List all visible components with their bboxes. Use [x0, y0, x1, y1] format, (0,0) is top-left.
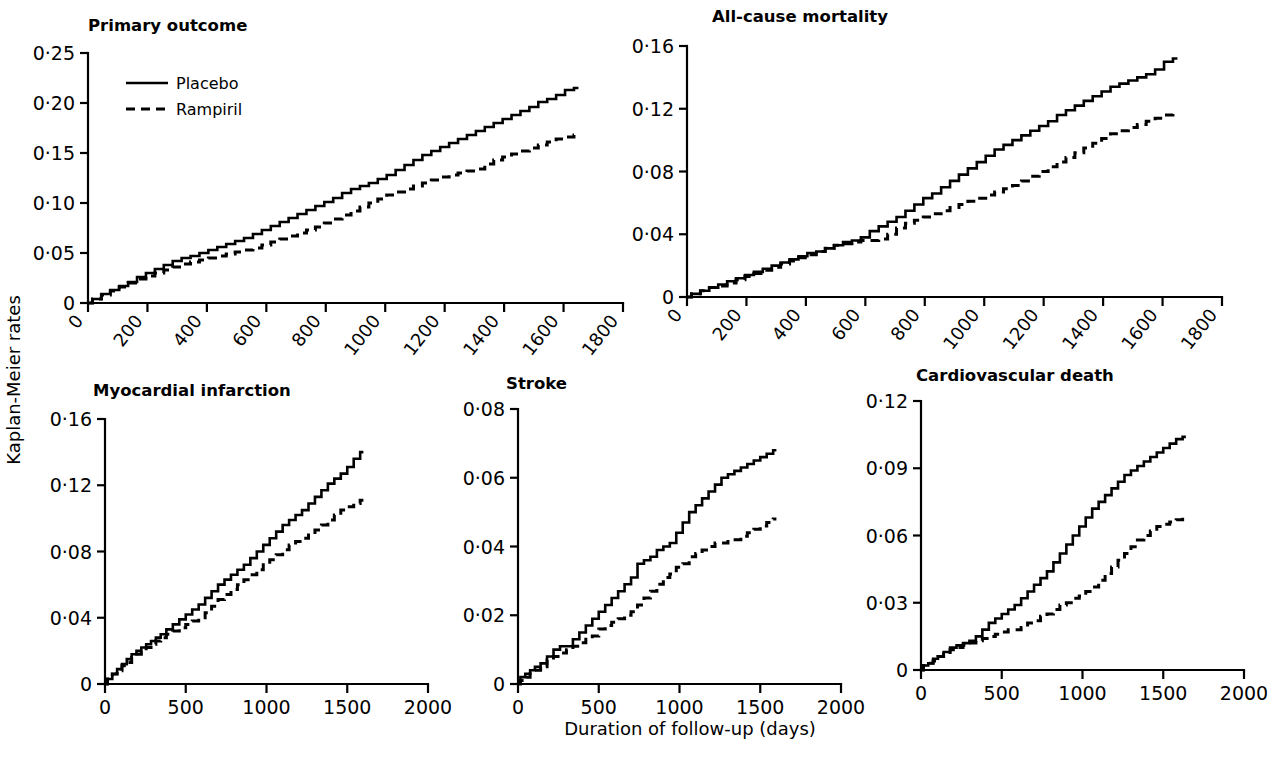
- y-tick-label: 0·25: [33, 42, 75, 64]
- x-tick-label: 500: [581, 696, 617, 718]
- x-tick-label: 1500: [736, 696, 784, 718]
- legend-label-placebo: Placebo: [176, 74, 238, 93]
- y-tick-label: 0·12: [632, 98, 674, 120]
- x-tick-label: 2000: [1220, 682, 1268, 704]
- y-tick-label: 0·02: [463, 604, 505, 626]
- kaplan-meier-figure: Kaplan-Meier rates Duration of follow-up…: [0, 0, 1281, 757]
- panel-title: All-cause mortality: [712, 7, 888, 26]
- y-tick-label: 0·08: [50, 541, 92, 563]
- x-axis-label: Duration of follow-up (days): [564, 718, 816, 739]
- x-tick-label: 500: [168, 696, 204, 718]
- x-tick-label: 1000: [1058, 682, 1106, 704]
- y-tick-label: 0·12: [50, 474, 92, 496]
- y-tick-label: 0·06: [866, 525, 908, 547]
- x-tick-label: 1500: [323, 696, 371, 718]
- y-tick-label: 0·03: [866, 592, 908, 614]
- y-tick-label: 0: [896, 659, 908, 681]
- x-tick-label: 500: [984, 682, 1020, 704]
- x-tick-label: 1500: [1139, 682, 1187, 704]
- y-tick-label: 0: [493, 673, 505, 695]
- x-tick-label: 0: [99, 696, 111, 718]
- panel-title: Primary outcome: [88, 16, 247, 35]
- panel-title: Cardiovascular death: [916, 366, 1114, 385]
- panel-title: Myocardial infarction: [93, 381, 291, 400]
- y-tick-label: 0·04: [50, 607, 92, 629]
- y-tick-label: 0·08: [632, 161, 674, 183]
- y-tick-label: 0·06: [463, 467, 505, 489]
- x-tick-label: 1000: [655, 696, 703, 718]
- y-tick-label: 0·16: [50, 408, 92, 430]
- x-tick-label: 2000: [817, 696, 865, 718]
- x-tick-label: 2000: [404, 696, 452, 718]
- y-tick-label: 0·04: [463, 536, 505, 558]
- y-tick-label: 0·05: [33, 242, 75, 264]
- y-tick-label: 0·16: [632, 35, 674, 57]
- legend-label-rampiril: Rampiril: [176, 100, 242, 119]
- y-tick-label: 0·10: [33, 192, 75, 214]
- y-tick-label: 0·20: [33, 92, 75, 114]
- y-tick-label: 0·12: [866, 390, 908, 412]
- x-tick-label: 1000: [242, 696, 290, 718]
- y-tick-label: 0: [662, 286, 674, 308]
- y-tick-label: 0: [63, 292, 75, 314]
- y-axis-label: Kaplan-Meier rates: [3, 295, 24, 465]
- y-tick-label: 0·08: [463, 398, 505, 420]
- y-tick-label: 0·04: [632, 223, 674, 245]
- y-tick-label: 0·15: [33, 142, 75, 164]
- y-tick-label: 0·09: [866, 457, 908, 479]
- x-tick-label: 0: [512, 696, 524, 718]
- panel-title: Stroke: [506, 374, 567, 393]
- y-tick-label: 0: [80, 673, 92, 695]
- x-tick-label: 0: [915, 682, 927, 704]
